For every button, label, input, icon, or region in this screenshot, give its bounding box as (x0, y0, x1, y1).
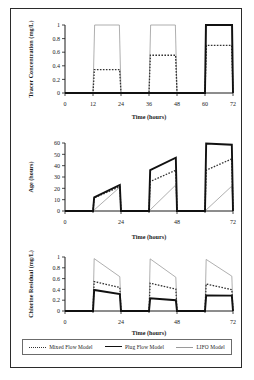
legend-item-mixed-flow-model: Mixed Flow Model (29, 344, 93, 350)
y-tick-label: 0.2 (53, 297, 61, 303)
y-tick-label: 50 (54, 152, 60, 158)
x-axis-title: Time (hours) (132, 233, 166, 241)
y-tick-label: 0.4 (53, 63, 61, 69)
y-tick-label: 0.8 (53, 36, 61, 42)
chart-panel-chlorine-residual: 024487200.20.40.60.81Time (hours)Chlorin… (11, 249, 243, 337)
thick-solid-line-icon (105, 345, 122, 349)
y-axis-title: Chlorine Residual (mg/L) (27, 250, 35, 318)
thin-solid-line-icon (176, 345, 193, 349)
x-tick-label: 24 (118, 101, 124, 107)
legend-item-lifo-model: LIFO Model (176, 344, 224, 350)
x-tick-label: 72 (230, 101, 236, 107)
y-tick-label: 0 (57, 90, 60, 96)
chlorine-plot: 024487200.20.40.60.81Time (hours)Chlorin… (11, 249, 243, 337)
y-tick-label: 0.2 (53, 77, 61, 83)
x-tick-label: 72 (230, 319, 236, 325)
x-tick-label: 72 (230, 219, 236, 225)
x-tick-label: 48 (174, 319, 180, 325)
legend-label-mixed-flow-model: Mixed Flow Model (49, 344, 93, 350)
chart-panel-age: 02448720102030405060Time (hours)Age (hou… (11, 129, 243, 249)
y-tick-label: 60 (54, 140, 60, 146)
y-tick-label: 20 (54, 186, 60, 192)
x-axis-title: Time (hours) (132, 113, 166, 121)
x-tick-label: 48 (174, 219, 180, 225)
x-tick-label: 0 (64, 319, 67, 325)
y-tick-label: 0.6 (53, 49, 61, 55)
x-tick-label: 36 (146, 101, 152, 107)
y-tick-label: 0.4 (53, 287, 61, 293)
legend-label-lifo-model: LIFO Model (196, 344, 224, 350)
x-tick-label: 24 (118, 219, 124, 225)
series-line-mixed-flow (65, 45, 233, 93)
age-plot: 02448720102030405060Time (hours)Age (hou… (11, 129, 243, 249)
x-tick-label: 0 (64, 101, 67, 107)
x-axis-title: Time (hours) (132, 329, 166, 337)
tracer-plot: 012243648607200.20.40.60.81Time (hours)T… (11, 11, 243, 129)
x-tick-label: 48 (174, 101, 180, 107)
y-tick-label: 1 (57, 254, 60, 260)
chart-legend: Mixed Flow Model Plug Flow Model LIFO Mo… (22, 339, 232, 355)
y-tick-label: 1 (57, 22, 60, 28)
y-tick-label: 40 (54, 163, 60, 169)
y-tick-label: 10 (54, 197, 60, 203)
y-tick-label: 0.6 (53, 276, 61, 282)
y-axis-title: Tracer Concentration (mg/L) (27, 20, 35, 97)
y-tick-label: 0.8 (53, 265, 61, 271)
x-tick-label: 60 (202, 101, 208, 107)
chart-panel-tracer-concentration: 012243648607200.20.40.60.81Time (hours)T… (11, 11, 243, 129)
legend-label-plug-flow-model: Plug Flow Model (125, 344, 164, 350)
y-tick-label: 0 (57, 208, 60, 214)
figure-container: 012243648607200.20.40.60.81Time (hours)T… (10, 8, 242, 368)
series-line-plug-flow (65, 144, 233, 211)
x-tick-label: 24 (118, 319, 124, 325)
x-tick-label: 0 (64, 219, 67, 225)
legend-item-plug-flow-model: Plug Flow Model (105, 344, 164, 350)
dotted-line-icon (29, 345, 46, 349)
y-axis-title: Age (hours) (27, 161, 35, 192)
y-tick-label: 0 (57, 308, 60, 314)
x-tick-label: 12 (90, 101, 96, 107)
y-tick-label: 30 (54, 174, 60, 180)
